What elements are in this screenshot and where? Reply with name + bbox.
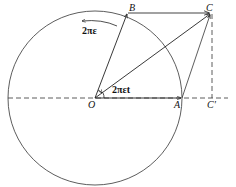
label-B: B [129, 2, 135, 13]
angle-arc-inner [98, 90, 102, 93]
label-C-prime: C' [207, 99, 217, 110]
label-C: C [206, 2, 213, 13]
angle-label: 2πεt [112, 84, 131, 95]
segment-AC [182, 15, 210, 98]
angle-arc [103, 93, 104, 98]
label-O: O [88, 99, 95, 110]
label-A: A [173, 99, 181, 110]
rotation-rate-label: 2πε [82, 25, 97, 36]
phasor-diagram: O A B C C' 2πε 2πεt [0, 0, 236, 187]
